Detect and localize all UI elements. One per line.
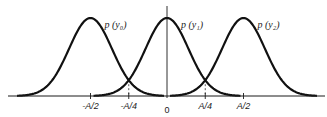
curve-label-py2: p (y₂): [257, 19, 281, 31]
curve-label-py0: p (y₀): [104, 19, 128, 31]
tick-label: -A/4: [120, 101, 137, 111]
curve-label-py1: p (y₁): [180, 19, 204, 31]
gaussian-densities-diagram: -A/2-A/40A/4A/2 p (y₀)p (y₁)p (y₂): [0, 0, 327, 117]
tick-label: A/2: [236, 101, 251, 111]
tick-label: 0: [164, 105, 169, 115]
tick-label: -A/2: [82, 101, 99, 111]
tick-label: A/4: [197, 101, 212, 111]
